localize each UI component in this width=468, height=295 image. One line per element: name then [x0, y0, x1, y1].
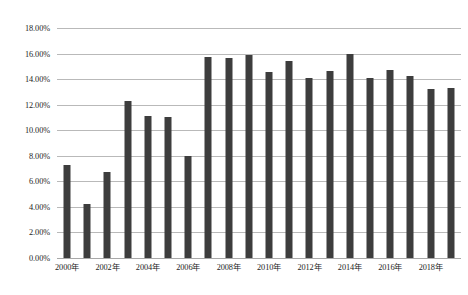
bar: [104, 172, 111, 258]
bar-slot: [97, 28, 117, 258]
x-tick-label: 2006年: [176, 260, 200, 272]
bar-slot: [279, 28, 299, 258]
bar: [326, 71, 333, 258]
x-tick-label: 2004年: [136, 260, 160, 272]
y-tick-label: 10.00%: [25, 126, 50, 135]
bar-slot: [138, 28, 158, 258]
bar-chart-figure: 0.00%2.00%4.00%6.00%8.00%10.00%12.00%14.…: [0, 0, 468, 295]
y-tick-label: 18.00%: [25, 24, 50, 33]
x-tick-label: 2014年: [338, 260, 362, 272]
y-tick-label: 4.00%: [29, 202, 50, 211]
bar-slot: [239, 28, 259, 258]
bar-slot: [340, 28, 360, 258]
bar: [306, 78, 313, 258]
y-tick-label: 12.00%: [25, 100, 50, 109]
bar: [144, 116, 151, 258]
bar: [266, 72, 273, 258]
y-axis: 0.00%2.00%4.00%6.00%8.00%10.00%12.00%14.…: [0, 0, 57, 295]
bar-slot: [360, 28, 380, 258]
x-tick-label: 2016年: [378, 260, 402, 272]
bar-slot: [57, 28, 77, 258]
bar-slot: [441, 28, 461, 258]
bar: [427, 89, 434, 258]
bar-slot: [158, 28, 178, 258]
bar: [225, 58, 232, 258]
y-tick-label: 6.00%: [29, 177, 50, 186]
x-axis: 2000年2002年2004年2006年2008年2010年2012年2014年…: [57, 259, 461, 275]
y-tick-label: 0.00%: [29, 254, 50, 263]
bar-slot: [380, 28, 400, 258]
bar: [346, 54, 353, 258]
bar-slot: [421, 28, 441, 258]
bar: [367, 78, 374, 258]
bar: [407, 76, 414, 258]
x-tick-label: 2010年: [257, 260, 281, 272]
bar: [286, 61, 293, 258]
y-tick-label: 8.00%: [29, 151, 50, 160]
bar-slot: [178, 28, 198, 258]
bar-slot: [259, 28, 279, 258]
bar: [447, 88, 454, 258]
x-tick-label: 2008年: [217, 260, 241, 272]
bar-slot: [118, 28, 138, 258]
x-tick-label: 2002年: [95, 260, 119, 272]
bar: [84, 204, 91, 258]
bar: [205, 57, 212, 258]
bar: [124, 101, 131, 258]
bar-series: [57, 28, 461, 258]
bar-slot: [198, 28, 218, 258]
figure-caption: [0, 286, 468, 295]
x-tick-label: 2018年: [419, 260, 443, 272]
bar-slot: [77, 28, 97, 258]
plot-area: [57, 28, 461, 258]
x-tick-label: 2012年: [297, 260, 321, 272]
bar-slot: [299, 28, 319, 258]
y-tick-label: 14.00%: [25, 75, 50, 84]
bar-slot: [320, 28, 340, 258]
bar-slot: [400, 28, 420, 258]
bar: [245, 55, 252, 258]
y-tick-label: 16.00%: [25, 49, 50, 58]
bar: [64, 165, 71, 258]
x-tick-label: 2000年: [55, 260, 79, 272]
bar-slot: [219, 28, 239, 258]
bar: [165, 117, 172, 258]
bar: [185, 156, 192, 258]
y-tick-label: 2.00%: [29, 228, 50, 237]
bar: [387, 70, 394, 258]
